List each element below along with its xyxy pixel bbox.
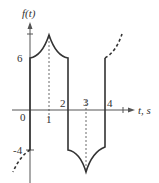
t-tick-label-3: 3 <box>83 96 89 108</box>
y-tick-label-neg4: -4 <box>13 144 23 156</box>
t-tick-label-1: 1 <box>46 113 52 125</box>
right-dashed-extension <box>105 34 122 58</box>
t-tick-label-4: 4 <box>107 97 113 109</box>
y-tick-label-6: 6 <box>17 52 23 64</box>
t-tick-label-2: 2 <box>60 97 66 109</box>
function-plot: f(t) t, s 0 1 2 3 4 6 -4 <box>0 0 159 183</box>
t-axis-arrow-icon <box>128 108 135 113</box>
t-axis-label: t, s <box>138 104 151 116</box>
y-axis-arrow-icon <box>28 22 33 29</box>
y-axis-label: f(t) <box>22 7 36 20</box>
function-curve <box>30 35 105 172</box>
origin-label: 0 <box>20 111 26 123</box>
